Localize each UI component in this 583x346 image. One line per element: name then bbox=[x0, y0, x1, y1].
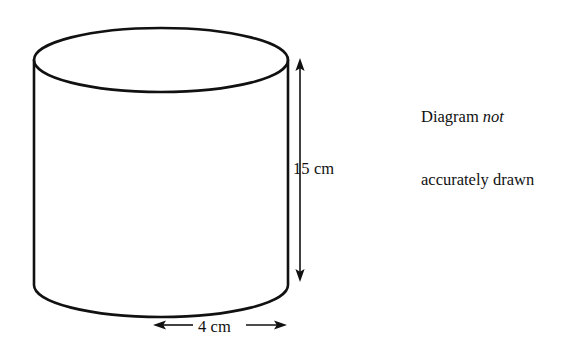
cylinder-body-outline bbox=[34, 60, 288, 317]
diagram-note-prefix: Diagram bbox=[421, 107, 483, 126]
diagram-note-line-1: Diagram not bbox=[421, 106, 534, 127]
width-dimension-label: 4 cm bbox=[198, 317, 231, 337]
cylinder-top-ellipse bbox=[34, 28, 288, 92]
diagram-note-line-2: accurately drawn bbox=[421, 169, 534, 190]
diagram-note: Diagram not accurately drawn bbox=[421, 64, 534, 211]
height-dimension-label: 15 cm bbox=[293, 159, 334, 179]
diagram-note-emphasis: not bbox=[483, 107, 504, 126]
